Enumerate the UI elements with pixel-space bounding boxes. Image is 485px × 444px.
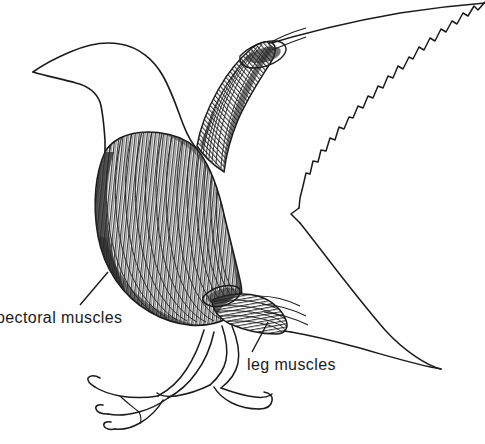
figure-canvas: les xyxy=(0,0,485,444)
label-pectoral-muscles: pectoral muscles xyxy=(0,309,122,327)
bird-anatomy-drawing xyxy=(0,0,485,444)
label-leg-muscles: leg muscles xyxy=(247,356,336,374)
